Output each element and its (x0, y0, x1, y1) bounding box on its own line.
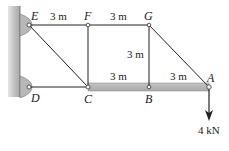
joint-f (86, 23, 90, 27)
dim-label-cb: 3 m (110, 70, 127, 82)
wall-support (8, 6, 20, 97)
label-b: B (145, 92, 153, 106)
label-a: A (206, 71, 215, 85)
joint-g (147, 23, 151, 27)
dim-label-fg: 3 m (110, 10, 127, 22)
joint-c (86, 85, 90, 89)
label-f: F (83, 9, 92, 23)
joint-e (27, 23, 31, 27)
member-ec (29, 25, 88, 87)
dim-label-ba: 3 m (170, 70, 187, 82)
label-d: D (30, 91, 40, 105)
truss-diagram: E F G D C B A 3 m 3 m 3 m 3 m 3 m 4 kN (0, 0, 229, 151)
load-arrow (205, 87, 213, 121)
label-e: E (30, 9, 39, 23)
joint-d (27, 85, 31, 89)
label-g: G (144, 9, 153, 23)
dim-label-gb: 3 m (127, 48, 144, 60)
dim-label-ef: 3 m (50, 10, 67, 22)
load-label: 4 kN (198, 124, 220, 136)
joint-a (207, 85, 211, 89)
label-c: C (84, 92, 93, 106)
joint-b (147, 85, 151, 89)
